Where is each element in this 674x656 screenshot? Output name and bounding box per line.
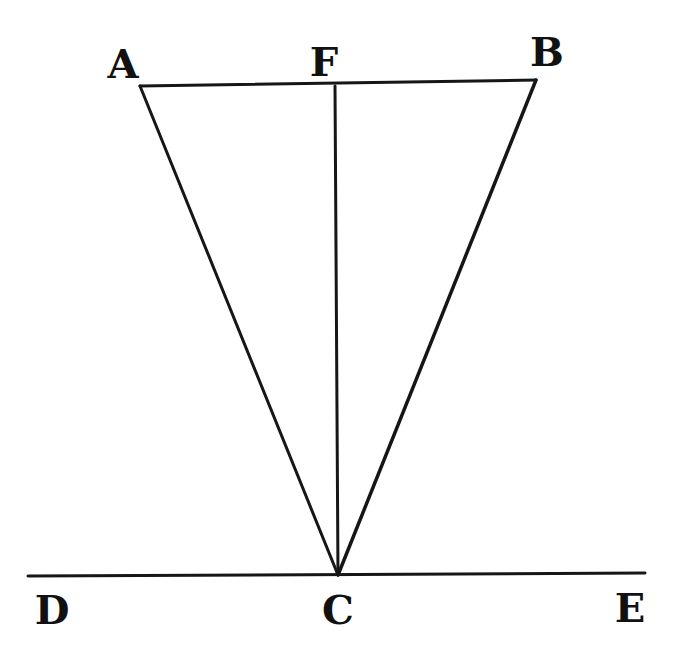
labels-group: AFBCDE	[35, 28, 646, 633]
point-label-d: D	[35, 586, 70, 633]
point-label-a: A	[106, 40, 139, 87]
segment-ac	[140, 86, 338, 575]
point-label-f: F	[310, 38, 338, 85]
segment-de	[28, 573, 645, 576]
point-label-e: E	[615, 584, 646, 631]
segment-fc	[335, 86, 338, 575]
point-label-c: C	[322, 586, 354, 633]
segment-bc	[338, 80, 536, 575]
point-label-b: B	[530, 28, 564, 75]
geometric-diagram: AFBCDE	[0, 0, 674, 656]
segments-group	[28, 80, 645, 576]
